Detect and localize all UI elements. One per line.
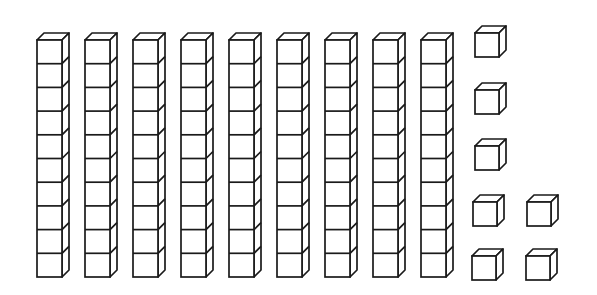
base-ten-blocks-diagram: Base ten blocks: 9 ten-rods and 7 unit c… bbox=[0, 0, 597, 295]
ten-rod bbox=[229, 33, 261, 277]
tens-rods-group bbox=[37, 33, 453, 277]
ten-rod bbox=[37, 33, 69, 277]
ten-rod bbox=[133, 33, 165, 277]
unit-cube bbox=[527, 195, 558, 226]
ten-rod bbox=[85, 33, 117, 277]
unit-cube bbox=[475, 139, 506, 170]
unit-cube bbox=[475, 83, 506, 114]
blocks-canvas bbox=[0, 0, 597, 295]
ten-rod bbox=[421, 33, 453, 277]
ten-rod bbox=[325, 33, 357, 277]
unit-cube bbox=[473, 195, 504, 226]
unit-cube bbox=[526, 249, 557, 280]
ten-rod bbox=[373, 33, 405, 277]
unit-cube bbox=[475, 26, 506, 57]
unit-cubes-group bbox=[472, 26, 558, 280]
ten-rod bbox=[181, 33, 213, 277]
unit-cube bbox=[472, 249, 503, 280]
ten-rod bbox=[277, 33, 309, 277]
